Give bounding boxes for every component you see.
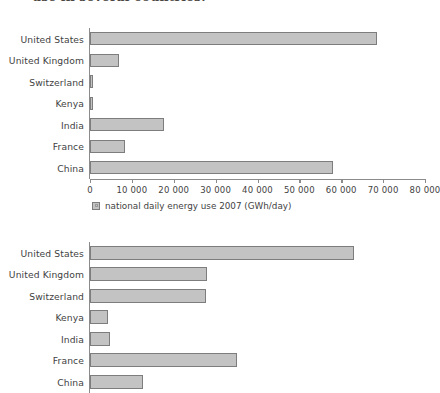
- x-axis-tick-label: 10 000: [116, 185, 147, 195]
- category-label: France: [0, 355, 84, 366]
- bar: [90, 375, 143, 389]
- bar: [90, 353, 237, 367]
- x-axis-tick: [341, 179, 342, 183]
- x-axis-tick: [216, 179, 217, 183]
- category-label: China: [0, 162, 84, 173]
- category-label: Switzerland: [0, 290, 84, 301]
- x-axis-tick: [425, 179, 426, 183]
- x-axis-tick-label: 70 000: [368, 185, 399, 195]
- chart-legend: national daily energy use 2007 (GWh/day): [92, 201, 291, 211]
- bar: [90, 310, 108, 324]
- category-label: Kenya: [0, 98, 84, 109]
- figure-caption-text: use in several countries.: [32, 0, 206, 4]
- x-axis-tick-label: 30 000: [200, 185, 231, 195]
- bar-chart-top: United StatesUnited KingdomSwitzerlandKe…: [0, 20, 436, 220]
- bar: [90, 97, 93, 110]
- bar: [90, 246, 354, 260]
- x-axis-tick-label: 60 000: [326, 185, 357, 195]
- x-axis-tick-label: 50 000: [284, 185, 315, 195]
- x-axis-tick: [299, 179, 300, 183]
- category-label: Kenya: [0, 312, 84, 323]
- category-label: United Kingdom: [0, 55, 84, 66]
- x-axis-tick-label: 40 000: [242, 185, 273, 195]
- bar: [90, 289, 206, 303]
- legend-label: national daily energy use 2007 (GWh/day): [105, 201, 291, 211]
- bar: [90, 118, 164, 131]
- x-axis-tick: [174, 179, 175, 183]
- category-label: India: [0, 119, 84, 130]
- x-axis-tick-label: 0: [87, 185, 93, 195]
- legend-swatch-icon: [92, 202, 100, 210]
- category-label: United States: [0, 33, 84, 44]
- category-label: China: [0, 376, 84, 387]
- category-label: India: [0, 333, 84, 344]
- bar: [90, 161, 333, 174]
- x-axis-tick: [90, 179, 91, 183]
- bar: [90, 332, 110, 346]
- figure-caption-clipped: use in several countries.: [0, 0, 436, 11]
- bar-chart-bottom: United StatesUnited KingdomSwitzerlandKe…: [0, 236, 436, 388]
- bar: [90, 32, 377, 45]
- category-label: United Kingdom: [0, 269, 84, 280]
- bar: [90, 267, 207, 281]
- category-label: France: [0, 141, 84, 152]
- x-axis-tick: [132, 179, 133, 183]
- x-axis-tick: [258, 179, 259, 183]
- bar: [90, 54, 119, 67]
- category-label: Switzerland: [0, 76, 84, 87]
- category-label: United States: [0, 247, 84, 258]
- bar: [90, 140, 125, 153]
- bar: [90, 75, 93, 88]
- x-axis-tick-label: 20 000: [158, 185, 189, 195]
- x-axis-tick: [383, 179, 384, 183]
- x-axis-tick-label: 80 000: [410, 185, 440, 195]
